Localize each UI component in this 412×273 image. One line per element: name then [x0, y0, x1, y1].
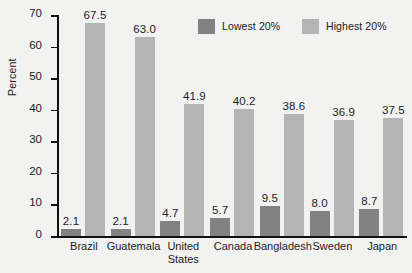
bar: 38.6 [284, 114, 304, 236]
y-tick-40: 40 [51, 110, 57, 112]
bar: 2.1 [111, 229, 131, 236]
x-axis-label-line: Japan [349, 240, 412, 253]
bar-value-label: 9.5 [262, 192, 278, 204]
bar-value-label: 63.0 [133, 23, 156, 35]
bar: 63.0 [135, 37, 155, 236]
bar: 4.7 [160, 221, 180, 236]
bar-value-label: 5.7 [212, 204, 228, 216]
y-tick-label-20: 20 [16, 165, 42, 177]
bar-value-label: 2.1 [113, 215, 129, 227]
x-axis-label: Japan [349, 240, 412, 253]
plot-area: 010203040506070 2.167.52.163.04.741.95.7… [57, 15, 407, 237]
bar-value-label: 4.7 [162, 207, 178, 219]
y-tick-70: 70 [51, 15, 57, 17]
bar-group: 9.538.6 [258, 15, 308, 236]
bar-value-label: 36.9 [332, 106, 355, 118]
y-tick-10: 10 [51, 204, 57, 206]
bar: 67.5 [85, 23, 105, 236]
y-tick-60: 60 [51, 47, 57, 49]
bar-value-label: 8.7 [361, 195, 377, 207]
bar-groups: 2.167.52.163.04.741.95.740.29.538.68.036… [59, 15, 407, 236]
bar-chart: Lowest 20% Highest 20% Percent 010203040… [0, 0, 412, 273]
bar: 8.7 [359, 209, 379, 236]
bar: 9.5 [260, 206, 280, 236]
bar: 41.9 [184, 104, 204, 236]
y-tick-label-30: 30 [16, 133, 42, 145]
y-tick-50: 50 [51, 78, 57, 80]
bar-value-label: 37.5 [382, 104, 405, 116]
bar-value-label: 67.5 [84, 9, 107, 21]
y-tick-label-40: 40 [16, 102, 42, 114]
y-tick-label-60: 60 [16, 39, 42, 51]
bar-value-label: 38.6 [282, 100, 305, 112]
bar-group: 8.737.5 [357, 15, 407, 236]
y-tick-30: 30 [51, 141, 57, 143]
y-tick-label-10: 10 [16, 196, 42, 208]
bar-group: 8.036.9 [308, 15, 358, 236]
bar-group: 5.740.2 [208, 15, 258, 236]
bar: 40.2 [234, 109, 254, 236]
bar: 36.9 [334, 120, 354, 236]
bar-value-label: 8.0 [311, 197, 327, 209]
bar-group: 2.163.0 [109, 15, 159, 236]
bar-value-label: 2.1 [63, 215, 79, 227]
y-tick-label-0: 0 [16, 228, 42, 240]
y-tick-20: 20 [51, 173, 57, 175]
y-tick-0: 0 [51, 236, 57, 238]
bar-group: 4.741.9 [158, 15, 208, 236]
y-tick-label-50: 50 [16, 70, 42, 82]
bar: 37.5 [383, 118, 403, 236]
bar: 5.7 [210, 218, 230, 236]
bar-group: 2.167.5 [59, 15, 109, 236]
bar-value-label: 41.9 [183, 90, 206, 102]
x-axis-line [57, 236, 407, 238]
y-tick-label-70: 70 [16, 7, 42, 19]
bar-value-label: 40.2 [233, 95, 256, 107]
x-axis-labels: BrazilGuatemalaUnitedStatesCanadaBanglad… [59, 240, 407, 273]
bar: 8.0 [310, 211, 330, 236]
bar: 2.1 [61, 229, 81, 236]
x-axis-label-line: States [150, 253, 216, 266]
